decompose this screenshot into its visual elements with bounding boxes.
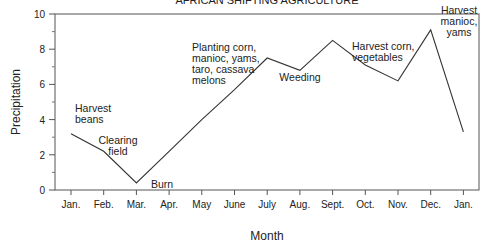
y-tick-label: 2 — [39, 150, 45, 161]
y-axis-label: Precipitation — [9, 69, 23, 135]
x-tick-label: Apr. — [160, 199, 178, 210]
x-tick-label: July — [258, 199, 276, 210]
x-axis-label: Month — [250, 229, 283, 243]
x-tick-label: June — [224, 199, 246, 210]
annotation-label: Harvest corn,vegetables — [352, 40, 414, 63]
plot-frame — [55, 14, 479, 190]
x-tick-label: Nov. — [388, 199, 408, 210]
annotation-label: Harvestmanioc,yams — [441, 4, 478, 38]
precipitation-chart: AFRICAN SHIFTING AGRICULTURE 0246810 Jan… — [0, 0, 487, 248]
x-tick-label: Dec. — [420, 199, 441, 210]
y-tick-label: 10 — [34, 9, 46, 20]
precipitation-line — [71, 30, 463, 183]
x-tick-label: Oct. — [356, 199, 374, 210]
annotation-label: Weeding — [279, 71, 320, 83]
y-tick-label: 6 — [39, 79, 45, 90]
x-tick-label: Feb. — [94, 199, 114, 210]
annotation-label: Burn — [151, 178, 173, 190]
chart-title: AFRICAN SHIFTING AGRICULTURE — [175, 0, 358, 6]
annotations: HarvestbeansClearingfieldBurnPlanting co… — [75, 4, 477, 190]
x-tick-label: Mar. — [127, 199, 146, 210]
y-tick-label: 0 — [39, 185, 45, 196]
x-tick-label: Jan. — [454, 199, 473, 210]
x-tick-label: May — [192, 199, 211, 210]
y-tick-label: 4 — [39, 115, 45, 126]
y-tick-label: 8 — [39, 44, 45, 55]
x-axis: Jan.Feb.Mar.Apr.MayJuneJulyAug.Sept.Oct.… — [62, 190, 473, 210]
x-tick-label: Aug. — [290, 199, 311, 210]
y-axis: 0246810 — [34, 9, 55, 196]
annotation-label: Harvestbeans — [75, 102, 111, 125]
x-tick-label: Jan. — [62, 199, 81, 210]
annotation-label: Clearingfield — [98, 134, 137, 157]
x-tick-label: Sept. — [321, 199, 344, 210]
annotation-label: Planting corn,manioc, yams,taro, cassava… — [192, 41, 260, 86]
